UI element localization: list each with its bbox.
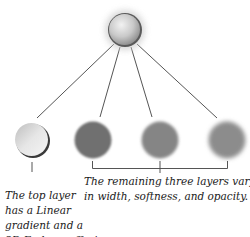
layer-node-3 (142, 122, 179, 159)
layer-node-2 (75, 122, 112, 159)
caption-line: has a Linear (5, 203, 102, 218)
caption-line: gradient and a (5, 218, 102, 233)
remaining-layers-bracket (93, 161, 228, 173)
caption-line: 3D Emboss effect. (5, 233, 102, 237)
remaining-layers-caption: The remaining three layers vary in width… (84, 174, 250, 204)
caption-line: The remaining three layers vary (84, 174, 250, 189)
combined-style-node (105, 10, 145, 50)
layer-node-4 (209, 122, 246, 159)
connector-lines (37, 44, 217, 118)
caption-line: in width, softness, and opacity. (84, 189, 250, 204)
layer-node-gradient-emboss (15, 123, 50, 158)
